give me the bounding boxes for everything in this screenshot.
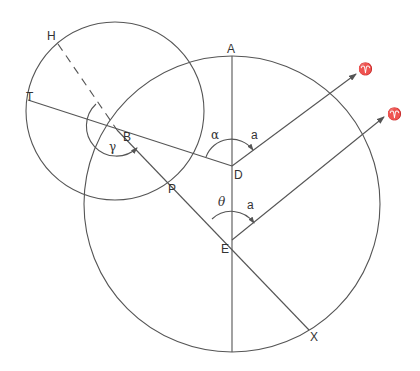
label-theta: θ: [218, 195, 226, 209]
circles-group: [26, 22, 380, 352]
geometry-diagram: HTBγPADαaθaEX♈♈: [0, 0, 420, 371]
label-gamma: γ: [109, 140, 116, 154]
angle-arcs-group: [86, 104, 254, 223]
labels-group: HTBγPADαaθaEX♈♈: [26, 29, 402, 344]
diagram-canvas: HTBγPADαaθaEX♈♈: [0, 0, 420, 371]
label-a-D: a: [251, 128, 258, 142]
label-H: H: [47, 29, 56, 43]
label-alpha: α: [211, 128, 219, 142]
label-D: D: [234, 168, 243, 182]
label-E: E: [221, 242, 229, 256]
label-aries-1: ♈: [358, 62, 373, 76]
segments-group: [28, 44, 384, 352]
label-X: X: [310, 330, 318, 344]
label-A: A: [227, 42, 235, 56]
label-a-E: a: [247, 198, 254, 212]
line-D-aries-arrow: [232, 74, 356, 166]
label-aries-2: ♈: [387, 107, 402, 121]
label-T: T: [26, 90, 34, 104]
arc-theta-E-icon: [212, 211, 254, 223]
label-P: P: [168, 182, 176, 196]
small-circle: [26, 22, 204, 200]
label-B: B: [123, 130, 131, 144]
